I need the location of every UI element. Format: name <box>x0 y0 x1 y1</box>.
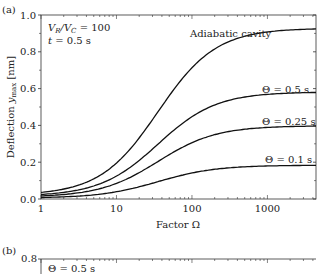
svg-text:0.2: 0.2 <box>20 157 36 168</box>
label-theta-05: Θ = 0.5 s <box>262 84 309 95</box>
curve-0 <box>41 29 316 193</box>
svg-text:10: 10 <box>110 203 123 214</box>
panel-b-label: (b) <box>2 245 16 256</box>
panel-b-ytick-top: 0.8 <box>21 253 37 264</box>
x-axis-title: Factor Ω <box>156 219 200 230</box>
svg-text:0.8: 0.8 <box>20 46 36 57</box>
time-annotation: t = 0.5 s <box>48 35 91 46</box>
y-axis-title: Deflection ymax [nm] <box>5 56 18 158</box>
params-annotation: VR/VC = 100 <box>48 22 110 35</box>
svg-text:1.0: 1.0 <box>20 10 36 21</box>
curve-1 <box>41 93 316 195</box>
curves-a <box>41 29 316 198</box>
svg-text:100: 100 <box>182 203 201 214</box>
label-theta-025: Θ = 0.25 s <box>262 116 316 127</box>
panel-b-first-label: Θ = 0.5 s <box>48 263 95 274</box>
chart-canvas: (a) 0.00.20.40.60.81.0 1101001000 VR/VC … <box>0 0 321 274</box>
svg-text:0.4: 0.4 <box>20 120 36 131</box>
label-theta-01: Θ = 0.1 s <box>265 154 312 165</box>
svg-text:0.6: 0.6 <box>20 83 36 94</box>
svg-text:0.0: 0.0 <box>20 194 36 205</box>
svg-text:1000: 1000 <box>255 203 280 214</box>
svg-text:1: 1 <box>38 203 44 214</box>
panel-a-label: (a) <box>2 4 16 15</box>
label-adiabatic: Adiabatic cavity <box>189 28 272 39</box>
